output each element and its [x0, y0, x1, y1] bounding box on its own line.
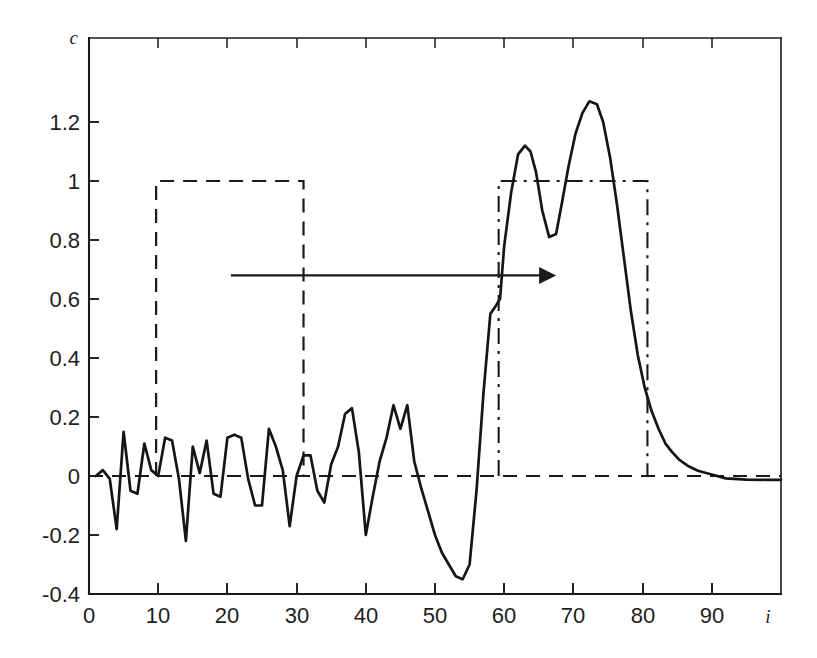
y-ticklabel-0: 0 — [68, 464, 80, 489]
x-ticklabel-50: 50 — [423, 603, 447, 628]
y-ticklabel-1: 1 — [68, 169, 80, 194]
y-ticklabel-0.4: 0.4 — [49, 346, 80, 371]
chart-svg: -0.4 -0.2 0 0.2 0.4 0.6 0.8 1 1.2 — [0, 0, 817, 658]
x-ticklabel-40: 40 — [354, 603, 378, 628]
x-ticklabel-10: 10 — [146, 603, 170, 628]
y-ticklabel-0.8: 0.8 — [49, 228, 80, 253]
y-ticklabel--0.2: -0.2 — [42, 523, 80, 548]
y-ticklabel-0.2: 0.2 — [49, 405, 80, 430]
chart-figure: -0.4 -0.2 0 0.2 0.4 0.6 0.8 1 1.2 — [0, 0, 817, 658]
x-ticklabel-70: 70 — [561, 603, 585, 628]
y-axis-title: c — [70, 27, 79, 48]
y-ticklabel--0.4: -0.4 — [42, 582, 80, 607]
x-ticklabel-30: 30 — [285, 603, 309, 628]
x-ticklabel-90: 90 — [700, 603, 724, 628]
y-ticklabel-0.6: 0.6 — [49, 287, 80, 312]
x-ticklabel-0: 0 — [83, 603, 95, 628]
x-ticklabel-20: 20 — [215, 603, 239, 628]
x-axis-title: i — [765, 606, 770, 627]
chart-background — [0, 0, 817, 658]
y-ticklabel-1.2: 1.2 — [49, 110, 80, 135]
x-ticklabel-80: 80 — [631, 603, 655, 628]
x-ticklabel-60: 60 — [492, 603, 516, 628]
